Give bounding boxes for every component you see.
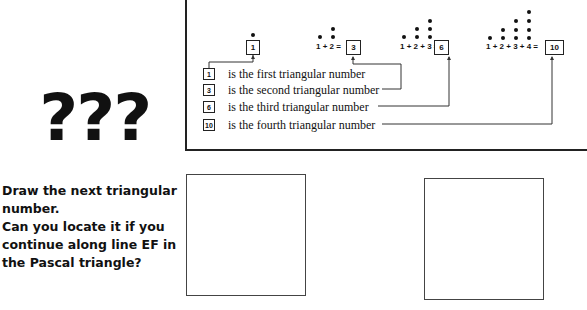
question-marks-decoration: ??? <box>39 86 150 150</box>
legend-text: is the third triangular number <box>228 100 369 115</box>
answer-box-left[interactable] <box>186 174 306 296</box>
legend-row-3: 6 is the third triangular number <box>203 101 369 113</box>
exercise-prompt: Draw the next triangular number. Can you… <box>2 182 180 272</box>
legend-text: is the fourth triangular number <box>228 118 375 133</box>
legend-text: is the first triangular number <box>228 67 365 82</box>
legend-number-box: 6 <box>203 101 215 113</box>
answer-box-right[interactable] <box>424 178 544 300</box>
legend-row-1: 1 is the first triangular number <box>203 68 365 80</box>
legend-text: is the second triangular number <box>228 83 379 98</box>
legend-number-box: 10 <box>203 119 215 131</box>
legend-number-box: 1 <box>203 68 215 80</box>
prompt-line-1: Draw the next triangular number. <box>2 182 180 218</box>
prompt-line-2: Can you locate it if you continue along … <box>2 218 180 272</box>
legend-number-box: 3 <box>203 84 215 96</box>
legend-row-4: 10 is the fourth triangular number <box>203 119 375 131</box>
legend-row-2: 3 is the second triangular number <box>203 84 379 96</box>
